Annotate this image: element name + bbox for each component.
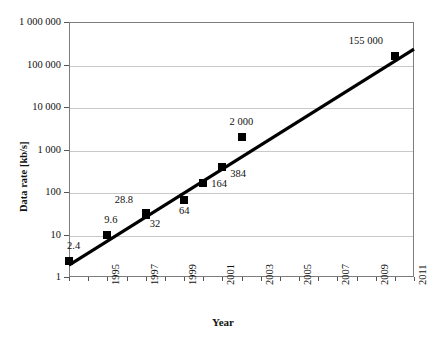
data-point-marker xyxy=(142,211,150,219)
data-point-marker xyxy=(238,133,246,141)
data-point-marker xyxy=(103,231,111,239)
data-point-label: 384 xyxy=(230,169,246,179)
data-point-marker xyxy=(65,257,73,265)
data-point-label: 155 000 xyxy=(349,36,383,46)
data-point-label: 32 xyxy=(150,219,161,229)
data-point-marker xyxy=(391,52,399,60)
data-point-label: 164 xyxy=(211,179,227,189)
data-point-label: 9.6 xyxy=(104,215,117,225)
trendline xyxy=(0,0,438,343)
data-point-label: 28.8 xyxy=(115,195,133,205)
chart-container: Data rate [kb/s] Year 1 000 000100 00010… xyxy=(0,0,438,343)
data-point-marker xyxy=(218,163,226,171)
data-point-marker xyxy=(180,196,188,204)
data-point-label: 64 xyxy=(179,206,190,216)
data-point-label: 2 000 xyxy=(230,117,254,127)
data-point-label: 2.4 xyxy=(67,241,80,251)
data-point-marker xyxy=(199,179,207,187)
